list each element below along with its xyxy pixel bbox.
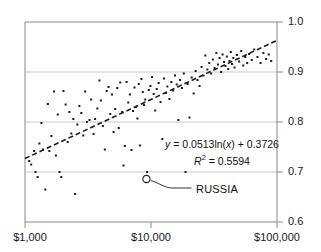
scatter-point bbox=[109, 113, 111, 115]
scatter-point bbox=[140, 78, 142, 80]
scatter-point bbox=[156, 88, 158, 90]
x-tick-label-100000: $100,000 bbox=[238, 232, 316, 243]
scatter-point bbox=[217, 64, 219, 66]
y-tick-label-0.9: 0.9 bbox=[288, 66, 303, 77]
scatter-point bbox=[195, 70, 197, 72]
scatter-point bbox=[163, 78, 165, 80]
russia-open-circle-marker bbox=[143, 175, 150, 182]
scatter-point bbox=[126, 81, 128, 83]
scatter-point bbox=[158, 82, 160, 84]
scatter-point bbox=[253, 49, 255, 51]
scatter-point bbox=[47, 103, 49, 105]
scatter-point bbox=[72, 118, 74, 120]
scatter-point bbox=[193, 93, 195, 95]
scatter-point bbox=[93, 133, 95, 135]
scatter-point bbox=[55, 155, 57, 157]
scatter-point bbox=[136, 118, 138, 120]
scatter-point bbox=[123, 165, 125, 167]
scatter-point bbox=[119, 82, 121, 84]
scatter-point bbox=[48, 150, 50, 152]
scatter-point bbox=[142, 91, 144, 93]
scatter-point bbox=[212, 59, 214, 61]
scatter-point bbox=[82, 135, 84, 137]
scatter-point bbox=[84, 91, 86, 93]
scatter-point bbox=[149, 85, 151, 87]
scatter-point bbox=[230, 51, 232, 53]
x-tick-label-1000: $1,000 bbox=[0, 232, 60, 243]
scatter-point bbox=[30, 164, 32, 166]
scatter-point bbox=[59, 171, 61, 173]
regression-annotation: y = 0.0513ln(x) + 0.3726 R2 = 0.5594 bbox=[163, 138, 281, 168]
scatter-point bbox=[33, 150, 35, 152]
scatter-point bbox=[50, 135, 52, 137]
equation-body: = 0.0513ln( bbox=[170, 138, 226, 150]
scatter-point bbox=[232, 57, 234, 59]
scatter-point bbox=[28, 160, 30, 162]
y-tick-label-0.8: 0.8 bbox=[288, 116, 303, 127]
scatter-point bbox=[44, 189, 46, 191]
scatter-point bbox=[80, 112, 82, 114]
r-squared-line: R2 = 0.5594 bbox=[163, 151, 281, 168]
scatter-point bbox=[76, 124, 78, 126]
scatter-point bbox=[151, 76, 153, 78]
scatter-point bbox=[251, 59, 253, 61]
scatter-point bbox=[118, 127, 120, 129]
scatter-point bbox=[114, 108, 116, 110]
scatter-point bbox=[130, 149, 132, 151]
scatter-point bbox=[38, 143, 40, 145]
scatter-point bbox=[127, 102, 129, 104]
scatter-point bbox=[268, 54, 270, 56]
scatter-point bbox=[138, 83, 140, 85]
scatter-point bbox=[129, 94, 131, 96]
scatter-point bbox=[100, 100, 102, 102]
scatter-point bbox=[240, 50, 242, 52]
scatter-point bbox=[134, 87, 136, 89]
scatter-point bbox=[90, 99, 92, 101]
scatter-point bbox=[174, 75, 176, 77]
scatter-point bbox=[102, 125, 104, 127]
scatter-point bbox=[177, 119, 179, 121]
scatter-point bbox=[238, 61, 240, 63]
scatter-point bbox=[40, 122, 42, 124]
scatter-point bbox=[68, 111, 70, 113]
scatter-point bbox=[74, 193, 76, 195]
scatter-point bbox=[246, 62, 248, 64]
scatter-point bbox=[139, 145, 141, 147]
scatter-point bbox=[220, 71, 222, 73]
r-squared-value: = 0.5594 bbox=[206, 155, 250, 167]
russia-callout-label: RUSSIA bbox=[196, 183, 238, 195]
scatter-point bbox=[116, 87, 118, 89]
scatter-point bbox=[234, 67, 236, 69]
scatter-point bbox=[256, 56, 258, 58]
y-tick-label-0.6: 0.6 bbox=[288, 216, 303, 227]
scatter-point bbox=[226, 56, 228, 58]
scatter-point bbox=[223, 61, 225, 63]
scatter-point bbox=[78, 105, 80, 107]
scatter-point bbox=[65, 104, 67, 106]
scatter-point bbox=[210, 73, 212, 75]
scatter-point bbox=[70, 133, 72, 135]
scatter-point bbox=[53, 91, 55, 93]
scatter-point bbox=[242, 65, 244, 67]
y-tick-marks bbox=[277, 22, 283, 222]
equation-tail: ) + 0.3726 bbox=[231, 138, 279, 150]
regression-equation: y = 0.0513ln(x) + 0.3726 bbox=[163, 138, 281, 151]
scatter-point bbox=[60, 176, 62, 178]
scatter-point bbox=[34, 171, 36, 173]
scatter-point bbox=[154, 110, 156, 112]
scatter-point bbox=[111, 94, 113, 96]
scatter-point bbox=[108, 86, 110, 88]
scatter-point bbox=[236, 54, 238, 56]
scatter-chart-figure: 1.0 0.9 0.8 0.7 0.6 $1,000 $10,000 $100,… bbox=[0, 0, 321, 252]
scatter-point bbox=[231, 63, 233, 65]
scatter-point bbox=[67, 141, 69, 143]
x-tick-marks bbox=[25, 222, 277, 228]
scatter-point bbox=[222, 54, 224, 56]
scatter-point bbox=[262, 52, 264, 54]
scatter-point bbox=[227, 68, 229, 70]
scatter-point bbox=[144, 99, 146, 101]
scatter-point bbox=[86, 121, 88, 123]
russia-highlight bbox=[143, 175, 192, 188]
scatter-point bbox=[265, 58, 267, 60]
scatter-point bbox=[170, 81, 172, 83]
